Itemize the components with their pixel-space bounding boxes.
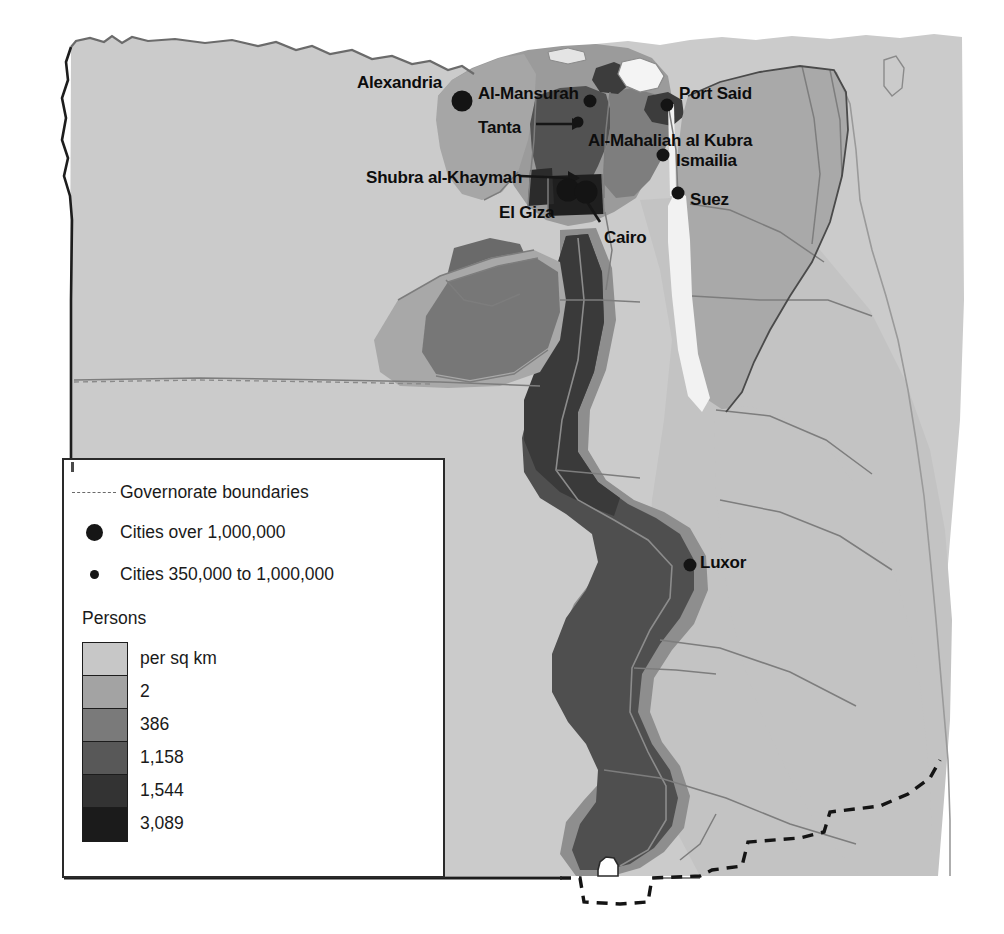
density-ramp-labels: per sq km 2 386 1,158 1,544 3,089 — [140, 642, 217, 840]
map-legend[interactable]: Governorate boundaries Cities over 1,000… — [62, 458, 445, 878]
city-dot-ismailia[interactable] — [656, 148, 672, 164]
city-large-icon — [68, 524, 120, 541]
legend-row-boundaries: Governorate boundaries — [68, 482, 309, 503]
legend-row-city-large: Cities over 1,000,000 — [68, 522, 285, 543]
legend-label-boundaries: Governorate boundaries — [120, 482, 309, 503]
city-dot-tanta[interactable] — [572, 116, 586, 130]
ramp-cell-2 — [83, 709, 127, 742]
legend-row-city-small: Cities 350,000 to 1,000,000 — [68, 564, 334, 585]
city-dot-port-said[interactable] — [660, 98, 676, 114]
city-label-ismailia: Ismailia — [676, 151, 737, 171]
city-label-tanta: Tanta — [478, 118, 521, 138]
city-label-al-mansurah: Al-Mansurah — [478, 84, 579, 104]
city-dot-luxor[interactable] — [683, 558, 699, 574]
ramp-label-2: 2 — [140, 675, 217, 708]
legend-label-city-small: Cities 350,000 to 1,000,000 — [120, 564, 334, 585]
map-page: Alexandria Al-Mansurah Port Said Tanta A… — [0, 0, 1004, 934]
legend-persons-title: Persons — [82, 608, 146, 629]
ramp-cell-4 — [83, 775, 127, 808]
city-label-cairo: Cairo — [604, 228, 646, 248]
city-dot-suez[interactable] — [671, 186, 687, 202]
city-label-luxor: Luxor — [700, 553, 746, 573]
city-dot-cairo[interactable] — [574, 180, 600, 206]
ramp-cell-3 — [83, 742, 127, 775]
ramp-cell-0 — [83, 643, 127, 676]
city-dot-alexandria[interactable] — [451, 90, 475, 114]
legend-label-city-large: Cities over 1,000,000 — [120, 522, 285, 543]
ramp-label-unit: per sq km — [140, 642, 217, 675]
ramp-label-1544: 1,544 — [140, 774, 217, 807]
giza-urban-block — [528, 168, 554, 206]
ramp-cell-5 — [83, 808, 127, 841]
city-label-el-giza: El Giza — [499, 203, 554, 223]
ramp-label-386: 386 — [140, 708, 217, 741]
ramp-cell-1 — [83, 676, 127, 709]
city-label-port-said: Port Said — [679, 84, 752, 104]
city-dot-al-mansurah[interactable] — [583, 94, 599, 110]
governorate-boundary-icon — [68, 492, 120, 493]
ramp-label-3089: 3,089 — [140, 807, 217, 840]
city-label-suez: Suez — [690, 190, 729, 210]
legend-corner-tick — [71, 462, 74, 472]
ramp-label-1158: 1,158 — [140, 741, 217, 774]
city-label-shubra-al-khaymah: Shubra al-Khaymah — [366, 168, 522, 188]
city-label-alexandria: Alexandria — [357, 73, 442, 93]
city-small-icon — [68, 570, 120, 579]
density-color-ramp — [82, 642, 128, 842]
